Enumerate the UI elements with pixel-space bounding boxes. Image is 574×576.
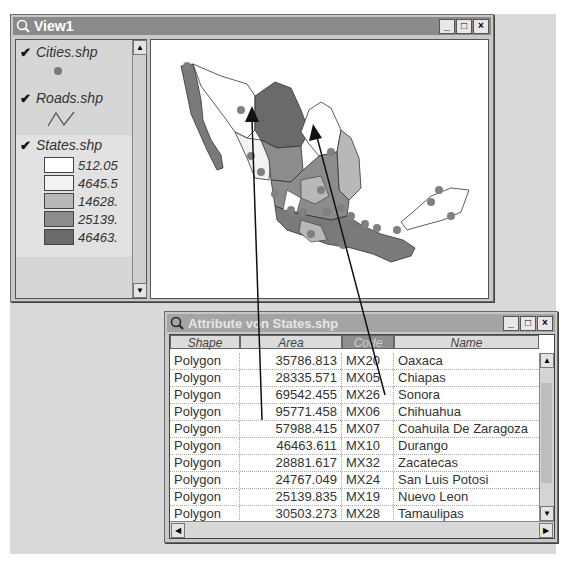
- line-symbol-icon: [46, 110, 78, 128]
- cell-area: 28881.617: [240, 455, 342, 471]
- table-row[interactable]: Polygon57988.415MX07Coahuila De Zaragoza: [170, 421, 539, 438]
- column-header-name[interactable]: Name: [394, 335, 539, 349]
- cell-area: 24767.049: [240, 472, 342, 488]
- table-row[interactable]: Polygon95771.458MX06Chihuahua: [170, 404, 539, 421]
- legend-label: 46463.: [78, 230, 118, 245]
- table-row[interactable]: Polygon28335.571MX05Chiapas: [170, 370, 539, 387]
- maximize-button[interactable]: □: [520, 316, 536, 331]
- checkbox-roads[interactable]: ✔: [20, 91, 32, 106]
- cell-code: MX05: [342, 370, 394, 386]
- mexico-map: [151, 40, 488, 298]
- cell-area: 25139.835: [240, 489, 342, 505]
- cell-code: MX06: [342, 404, 394, 420]
- attribute-table-window: Attribute von States.shp _ □ × Shape Are…: [164, 311, 558, 543]
- cell-name: San Luis Potosi: [394, 472, 539, 488]
- view-window: View1 _ □ × ✔Cities.shp ✔Roads.shp ✔Stat…: [10, 14, 494, 302]
- map-canvas[interactable]: [150, 39, 489, 299]
- legend-swatch: [44, 157, 74, 173]
- cell-name: Tamaulipas: [394, 506, 539, 522]
- close-button[interactable]: ×: [473, 19, 489, 34]
- scroll-right-button[interactable]: ▶: [539, 523, 553, 538]
- cell-shape: Polygon: [170, 506, 240, 522]
- legend-swatch: [44, 175, 74, 191]
- table-row[interactable]: Polygon24767.049MX24San Luis Potosi: [170, 472, 539, 489]
- legend-swatch: [44, 211, 74, 227]
- legend-class-2: 4645.5: [44, 175, 118, 191]
- cell-shape: Polygon: [170, 353, 240, 369]
- scroll-up-button[interactable]: ▲: [133, 40, 147, 55]
- cell-shape: Polygon: [170, 370, 240, 386]
- view-app-icon: [16, 19, 30, 33]
- cell-shape: Polygon: [170, 387, 240, 403]
- column-header-code[interactable]: Code: [342, 335, 394, 349]
- table-row[interactable]: Polygon25139.835MX19Nuevo Leon: [170, 489, 539, 506]
- cell-area: 69542.455: [240, 387, 342, 403]
- cell-code: MX07: [342, 421, 394, 437]
- cell-code: MX10: [342, 438, 394, 454]
- legend-class-5: 46463.: [44, 229, 118, 245]
- legend-swatch: [44, 229, 74, 245]
- layer-cities[interactable]: ✔Cities.shp: [20, 44, 97, 60]
- legend-swatch: [44, 193, 74, 209]
- table-body: Polygon35786.813MX20Oaxaca Polygon28335.…: [170, 353, 539, 533]
- toc-scrollbar[interactable]: ▲ ▼: [132, 40, 146, 298]
- maximize-button[interactable]: □: [456, 19, 472, 34]
- cell-name: Chiapas: [394, 370, 539, 386]
- cell-area: 30503.273: [240, 506, 342, 522]
- cell-area: 95771.458: [240, 404, 342, 420]
- column-header-area[interactable]: Area: [240, 335, 342, 349]
- table-header: Shape Area Code Name: [170, 335, 539, 350]
- vertical-scrollbar[interactable]: ▲ ▼: [539, 353, 554, 521]
- cell-code: MX24: [342, 472, 394, 488]
- table-row[interactable]: Polygon28881.617MX32Zacatecas: [170, 455, 539, 472]
- cell-name: Sonora: [394, 387, 539, 403]
- cell-shape: Polygon: [170, 455, 240, 471]
- scroll-down-button[interactable]: ▼: [133, 283, 147, 298]
- cell-shape: Polygon: [170, 421, 240, 437]
- cell-shape: Polygon: [170, 489, 240, 505]
- view-titlebar[interactable]: View1 _ □ ×: [13, 17, 491, 35]
- minimize-button[interactable]: _: [503, 316, 519, 331]
- layer-name: Cities.shp: [36, 44, 97, 60]
- legend-label: 4645.5: [78, 176, 118, 191]
- attribute-grid: Shape Area Code Name Polygon35786.813MX2…: [169, 334, 555, 539]
- table-row[interactable]: Polygon46463.611MX10Durango: [170, 438, 539, 455]
- horizontal-scrollbar[interactable]: ◀ ▶: [170, 521, 554, 538]
- cell-shape: Polygon: [170, 472, 240, 488]
- cell-area: 46463.611: [240, 438, 342, 454]
- cell-name: Coahuila De Zaragoza: [394, 421, 539, 437]
- attribute-titlebar[interactable]: Attribute von States.shp _ □ ×: [167, 314, 555, 332]
- scroll-down-button[interactable]: ▼: [540, 506, 554, 521]
- layer-roads[interactable]: ✔Roads.shp: [20, 90, 103, 106]
- checkbox-states[interactable]: ✔: [20, 138, 32, 153]
- cell-area: 28335.571: [240, 370, 342, 386]
- scroll-left-button[interactable]: ◀: [171, 523, 185, 538]
- layer-name: States.shp: [36, 137, 102, 153]
- cell-shape: Polygon: [170, 404, 240, 420]
- scroll-up-button[interactable]: ▲: [540, 353, 554, 368]
- layer-states[interactable]: ✔States.shp: [20, 137, 102, 153]
- cell-code: MX26: [342, 387, 394, 403]
- table-row[interactable]: Polygon35786.813MX20Oaxaca: [170, 353, 539, 370]
- scroll-thumb[interactable]: [541, 383, 552, 483]
- checkbox-cities[interactable]: ✔: [20, 45, 32, 60]
- attribute-app-icon: [170, 316, 184, 330]
- cell-name: Nuevo Leon: [394, 489, 539, 505]
- legend-class-4: 25139.: [44, 211, 118, 227]
- cell-code: MX28: [342, 506, 394, 522]
- cell-area: 35786.813: [240, 353, 342, 369]
- legend-class-1: 512.05: [44, 157, 118, 173]
- view-title: View1: [34, 18, 73, 34]
- point-symbol-icon: [54, 67, 62, 75]
- cell-name: Zacatecas: [394, 455, 539, 471]
- close-button[interactable]: ×: [537, 316, 553, 331]
- minimize-button[interactable]: _: [439, 19, 455, 34]
- cell-area: 57988.415: [240, 421, 342, 437]
- cell-shape: Polygon: [170, 438, 240, 454]
- column-header-shape[interactable]: Shape: [170, 335, 240, 349]
- table-row[interactable]: Polygon69542.455MX26Sonora: [170, 387, 539, 404]
- cell-name: Chihuahua: [394, 404, 539, 420]
- legend-label: 14628.: [78, 194, 118, 209]
- table-of-contents: ✔Cities.shp ✔Roads.shp ✔States.shp 512.0…: [15, 39, 147, 299]
- attribute-title: Attribute von States.shp: [188, 316, 338, 331]
